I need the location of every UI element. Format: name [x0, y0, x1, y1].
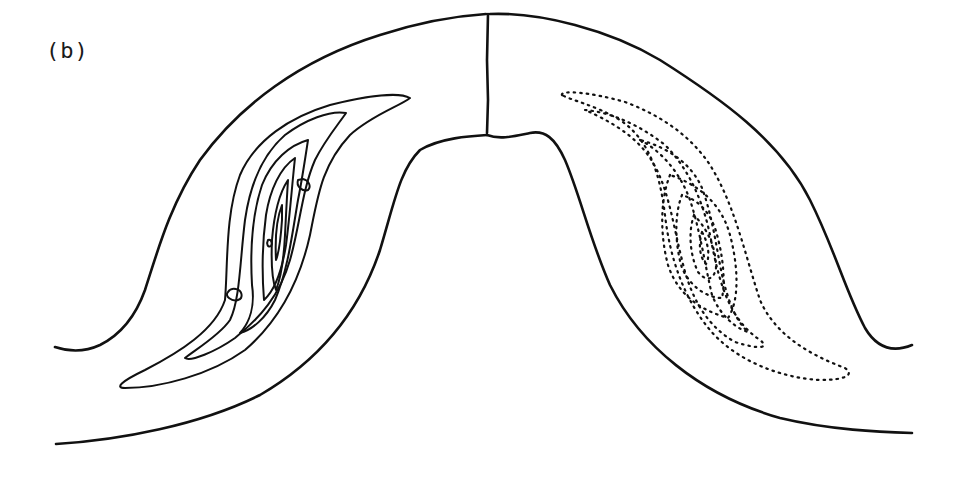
contour-dotted-7: [700, 232, 708, 264]
center-divider: [487, 14, 488, 133]
arch-contour-diagram: [0, 0, 963, 483]
solid-contours-left: [120, 95, 410, 388]
contour-solid-1: [120, 95, 410, 388]
inner-boundary-right: [487, 132, 912, 433]
contour-dotted-1: [562, 92, 849, 380]
contour-solid-3: [240, 140, 308, 333]
cusp-lower-loop: [227, 289, 242, 301]
cusp-upper-loop: [298, 179, 310, 190]
dotted-contours-right: [562, 92, 849, 380]
outer-boundary-right: [490, 14, 912, 349]
contour-solid-center: [267, 240, 272, 247]
